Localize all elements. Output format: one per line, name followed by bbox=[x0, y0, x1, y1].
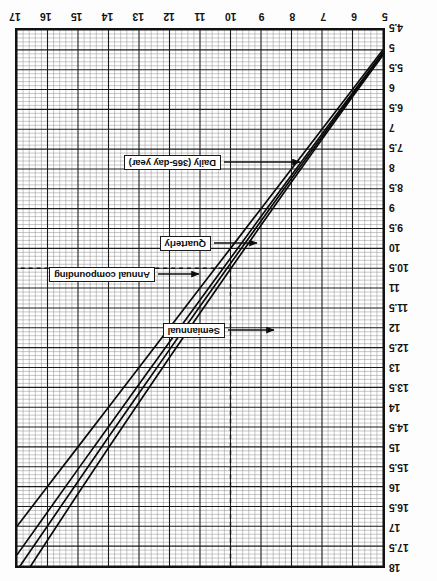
y-tick-label: 17.5 bbox=[389, 542, 409, 554]
y-tick-label: 10 bbox=[389, 242, 400, 254]
chart-figure: 567891011121314151617 4.555.566.577.588.… bbox=[0, 0, 437, 581]
x-tick-label: 6 bbox=[351, 11, 357, 23]
scanned-page: 567891011121314151617 4.555.566.577.588.… bbox=[0, 0, 437, 581]
y-tick-label: 5 bbox=[389, 42, 395, 54]
callout-quarterly: Quarterly bbox=[160, 236, 211, 251]
x-axis-tick-labels: 567891011121314151617 bbox=[15, 1, 385, 25]
y-tick-label: 8 bbox=[389, 162, 395, 174]
y-tick-label: 17 bbox=[389, 522, 400, 534]
y-tick-label: 4.5 bbox=[389, 22, 403, 34]
grid-container bbox=[17, 30, 383, 566]
x-tick-label: 10 bbox=[225, 11, 236, 23]
y-tick-label: 9.5 bbox=[389, 222, 403, 234]
y-tick-label: 11.5 bbox=[389, 302, 408, 314]
callout-daily: Daily (365-day year) bbox=[124, 155, 221, 170]
y-tick-label: 15 bbox=[389, 442, 400, 454]
y-tick-label: 9 bbox=[389, 202, 395, 214]
x-tick-label: 7 bbox=[321, 11, 327, 23]
y-tick-label: 15.5 bbox=[389, 462, 409, 474]
y-axis-tick-labels: 4.555.566.577.588.599.51010.51111.51212.… bbox=[387, 28, 433, 568]
y-tick-label: 13 bbox=[389, 362, 400, 374]
y-tick-label: 6.5 bbox=[389, 102, 403, 114]
y-tick-label: 12 bbox=[389, 322, 400, 334]
y-tick-label: 5.5 bbox=[389, 62, 403, 74]
x-tick-label: 8 bbox=[290, 11, 296, 23]
y-tick-label: 18 bbox=[389, 562, 400, 574]
y-tick-label: 6 bbox=[389, 82, 395, 94]
x-tick-label: 5 bbox=[382, 11, 388, 23]
callout-annual-compounding: Annual compounding bbox=[49, 267, 155, 282]
x-tick-label: 13 bbox=[133, 11, 144, 23]
callout-semiannual: Semiannual bbox=[163, 323, 225, 338]
y-tick-label: 14.5 bbox=[389, 422, 409, 434]
y-tick-label: 11 bbox=[389, 282, 400, 294]
x-tick-label: 14 bbox=[102, 11, 113, 23]
y-tick-label: 14 bbox=[389, 402, 400, 414]
x-tick-label: 12 bbox=[164, 11, 175, 23]
y-tick-label: 13.5 bbox=[389, 382, 409, 394]
y-tick-label: 16.5 bbox=[389, 502, 409, 514]
x-tick-label: 17 bbox=[9, 11, 20, 23]
x-tick-label: 9 bbox=[259, 11, 265, 23]
y-tick-label: 7 bbox=[389, 122, 395, 134]
x-tick-label: 15 bbox=[71, 11, 82, 23]
y-tick-label: 10.5 bbox=[389, 262, 409, 274]
y-tick-label: 7.5 bbox=[389, 142, 403, 154]
plot-area bbox=[15, 28, 385, 568]
y-tick-label: 8.5 bbox=[389, 182, 403, 194]
x-tick-label: 11 bbox=[195, 11, 206, 23]
x-tick-label: 16 bbox=[40, 11, 51, 23]
y-tick-label: 16 bbox=[389, 482, 400, 494]
y-tick-label: 12.5 bbox=[389, 342, 409, 354]
graph-paper-grid bbox=[17, 30, 383, 566]
